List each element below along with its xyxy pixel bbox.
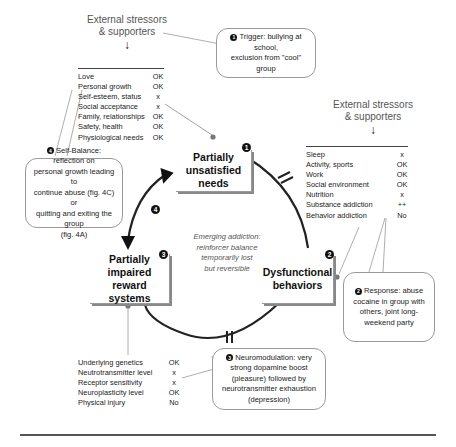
callout-text: Response: abuse: [364, 286, 423, 295]
connector-dot: [210, 134, 215, 139]
behaviors-stressor-table: Sleepx Activity, sportsOK WorkOK Social …: [306, 146, 408, 221]
down-arrow-icon: ↓: [62, 38, 192, 52]
table-row: Substance addiction++: [306, 200, 408, 210]
row-label: Work: [306, 170, 323, 180]
table-row: LoveOK: [78, 72, 164, 82]
neuromodulation-callout: 3 Neuromodulation: very strong dopamine …: [212, 348, 326, 410]
row-value: x: [152, 102, 164, 112]
cycle-arc-behaviors-to-reward: [145, 302, 280, 338]
callout-text: (depression): [222, 395, 316, 406]
note-line: reinforcer balance: [186, 243, 268, 254]
interruption-mark-icon: [278, 172, 293, 183]
trigger-callout: 1 Trigger: bullying at school, exclusion…: [216, 28, 316, 78]
note-line: Emerging addiction:: [186, 232, 268, 243]
row-label: Love: [78, 72, 94, 82]
arrowhead-icon: [156, 168, 174, 186]
table-row: Receptor sensitivityx: [78, 378, 180, 388]
callout-text: quitting and exiting the group: [32, 209, 116, 230]
callout-text: strong dopamine boost: [222, 363, 316, 374]
table-row: Social acceptancex: [78, 102, 164, 112]
node-title-line1: Dysfunctional: [263, 266, 332, 279]
table-row: Family, relationshipsOK: [78, 112, 164, 122]
row-value: No: [168, 398, 180, 408]
node-impaired-reward-systems: Partially impaired reward systems: [90, 254, 170, 304]
badge-3-icon: 3: [226, 354, 233, 361]
table-row: Underlying geneticsOK: [78, 358, 180, 368]
row-value: OK: [396, 160, 408, 170]
row-value: OK: [152, 122, 164, 132]
row-label: Neutrotransmitter level: [78, 368, 152, 378]
callout-text: personal growth leading to: [32, 167, 116, 188]
node-title-line1: Partially: [176, 151, 251, 164]
stressors-title-line1: External stressors: [62, 14, 192, 26]
stressors-title-line1: External stressors: [318, 99, 428, 111]
node-title-line2: behaviors: [263, 279, 332, 292]
table-row: Nutritionx: [306, 190, 408, 200]
row-label: Substance addiction: [306, 200, 373, 210]
arrowhead-icon: [121, 236, 135, 250]
row-label: Family, relationships: [78, 112, 145, 122]
badge-4-icon: 4: [151, 205, 160, 214]
row-label: Nutrition: [306, 190, 334, 200]
callout-text: others, joint long-: [353, 307, 424, 318]
row-value: x: [168, 378, 180, 388]
row-label: Underlying genetics: [78, 358, 143, 368]
callout-text: Self-Balance: reflection on: [53, 146, 101, 166]
row-value: OK: [396, 180, 408, 190]
callout-text: cocaine in group with: [353, 297, 424, 308]
row-value: OK: [396, 170, 408, 180]
connector-dot: [334, 274, 339, 279]
table-row: Neutrotransmitter levelx: [78, 368, 180, 378]
callout-text: Trigger: bullying at school,: [239, 32, 301, 52]
interruption-mark-icon: [227, 331, 232, 343]
callout-text: continue abuse (fig. 4C) or: [32, 188, 116, 209]
badge-3-icon: 3: [159, 250, 168, 259]
reward-factors-table: Underlying geneticsOK Neutrotransmitter …: [78, 358, 180, 408]
row-value: x: [396, 150, 408, 160]
stressors-title-line2: & supporters: [318, 111, 428, 123]
row-value: OK: [152, 133, 164, 143]
callout-text: weekend party: [353, 318, 424, 329]
node-unsatisfied-needs: Partially unsatisfied needs: [176, 150, 252, 192]
self-balance-callout: 4 Self-Balance: reflection on personal g…: [25, 158, 123, 228]
row-value: No: [396, 211, 408, 221]
note-line: but reversible: [186, 264, 268, 275]
table-row: Social environmentOK: [306, 180, 408, 190]
response-callout: 2 Response: abuse cocaine in group with …: [343, 272, 435, 342]
table-row: Sleepx: [306, 150, 408, 160]
table-row: Activity, sportsOK: [306, 160, 408, 170]
center-note: Emerging addiction: reinforcer balance t…: [186, 232, 268, 274]
row-value: OK: [152, 112, 164, 122]
stressors-title-line2: & supporters: [62, 26, 192, 38]
row-label: Personal growth: [78, 82, 131, 92]
row-label: Receptor sensitivity: [78, 378, 142, 388]
table-row: Behavior addictionNo: [306, 211, 408, 221]
note-line: temporarily lost: [186, 253, 268, 264]
row-label: Activity, sports: [306, 160, 353, 170]
callout-text: neurotransmitter exhaustion: [222, 384, 316, 395]
row-label: Physical injury: [78, 398, 125, 408]
stressors-title-right: External stressors & supporters ↓: [318, 99, 428, 137]
row-label: Neuroplasticity level: [78, 388, 144, 398]
stressors-title-left: External stressors & supporters ↓: [62, 14, 192, 52]
row-value: x: [168, 368, 180, 378]
node-title-line2: reward systems: [90, 279, 169, 305]
table-row: Physical injuryNo: [78, 398, 180, 408]
row-label: Behavior addiction: [306, 211, 367, 221]
badge-1-icon: 1: [230, 34, 237, 41]
row-value: OK: [152, 82, 164, 92]
node-title-line1: Partially impaired: [90, 253, 169, 279]
needs-stressor-table: LoveOK Personal growthOK Self-esteem, st…: [78, 68, 164, 143]
table-row: Neuroplasticity levelOK: [78, 388, 180, 398]
row-label: Safety, health: [78, 122, 123, 132]
callout-text: exclusion from "cool" group: [223, 53, 309, 74]
row-value: x: [396, 190, 408, 200]
node-dysfunctional-behaviors: Dysfunctional behaviors: [262, 254, 334, 304]
callout-text: (pleasure) followed by: [222, 374, 316, 385]
table-row: Personal growthOK: [78, 82, 164, 92]
badge-4-icon: 4: [47, 147, 54, 154]
callout-text: Neuromodulation: very: [235, 353, 311, 362]
table-row: Physiological needsOK: [78, 133, 164, 143]
row-label: Self-esteem, status: [78, 92, 141, 102]
row-value: OK: [152, 72, 164, 82]
